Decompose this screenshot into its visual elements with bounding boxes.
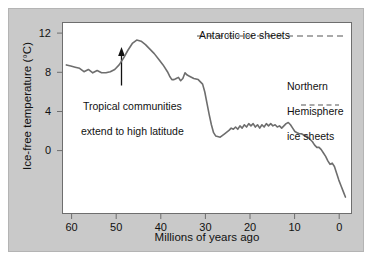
annotation-northern-line3: ice sheets bbox=[287, 130, 344, 143]
tropical-communities-arrow bbox=[118, 47, 125, 86]
y-axis-ticks bbox=[57, 33, 62, 151]
y-axis-label: Ice-free temperature (°C) bbox=[21, 42, 33, 170]
x-axis-label: Millions of years ago bbox=[62, 231, 352, 243]
annotation-northern-line2: Hemisphere bbox=[287, 105, 344, 118]
annotation-northern-line1: Northern bbox=[287, 80, 344, 93]
x-axis-ticks bbox=[72, 214, 340, 219]
figure-container: 12 8 4 0 60 50 40 30 20 10 0 Ice-free te… bbox=[8, 8, 364, 252]
annotation-tropical-line2: extend to high latitude bbox=[81, 125, 184, 138]
y-axis-label-wrapper: Ice-free temperature (°C) bbox=[17, 21, 35, 191]
annotation-antarctic-ice-sheets: Antarctic ice sheets bbox=[199, 29, 290, 42]
annotation-northern-hemisphere-ice-sheets: Northern Hemisphere ice sheets bbox=[287, 67, 344, 155]
annotation-tropical-line1: Tropical communities bbox=[81, 100, 184, 113]
annotation-tropical-communities: Tropical communities extend to high lati… bbox=[81, 87, 184, 150]
